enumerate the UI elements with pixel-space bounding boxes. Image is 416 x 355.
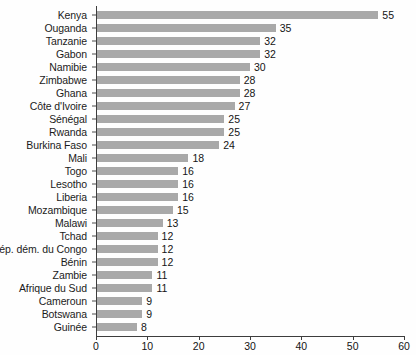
bar-value-label: 12 bbox=[162, 243, 174, 254]
plot-area: Kenya55Ouganda35Tanzanie32Gabon32Namibie… bbox=[96, 8, 404, 335]
bar-rows: Kenya55Ouganda35Tanzanie32Gabon32Namibie… bbox=[96, 8, 404, 333]
bar-value-label: 24 bbox=[223, 139, 235, 150]
category-label: Tchad bbox=[59, 230, 87, 241]
bar bbox=[96, 50, 260, 58]
category-label: Cameroun bbox=[39, 295, 87, 306]
bar-row: Rép. dém. du Congo12 bbox=[96, 242, 404, 255]
bar-value-label: 27 bbox=[239, 100, 251, 111]
category-label: Afrique du Sud bbox=[19, 282, 87, 293]
bar-row: Burkina Faso24 bbox=[96, 138, 404, 151]
bar-value-label: 32 bbox=[264, 35, 276, 46]
category-label: Tanzanie bbox=[46, 35, 87, 46]
bar-row: Namibie30 bbox=[96, 60, 404, 73]
bar bbox=[96, 180, 178, 188]
bar-value-label: 16 bbox=[182, 178, 194, 189]
bar-row: Kenya55 bbox=[96, 8, 404, 21]
bar bbox=[96, 11, 378, 19]
bar-row: Tanzanie32 bbox=[96, 34, 404, 47]
bar-row: Sénégal25 bbox=[96, 112, 404, 125]
bar bbox=[96, 219, 163, 227]
bar-row: Bénin12 bbox=[96, 255, 404, 268]
bar-row: Zambie11 bbox=[96, 268, 404, 281]
bar-value-label: 30 bbox=[254, 61, 266, 72]
bar-value-label: 25 bbox=[228, 126, 240, 137]
bar bbox=[96, 154, 188, 162]
bar-value-label: 9 bbox=[146, 308, 152, 319]
category-label: Rwanda bbox=[49, 126, 87, 137]
bar-value-label: 12 bbox=[162, 230, 174, 241]
bar bbox=[96, 24, 276, 32]
bar bbox=[96, 141, 219, 149]
bar-value-label: 9 bbox=[146, 295, 152, 306]
category-label: Liberia bbox=[56, 191, 87, 202]
bar-value-label: 8 bbox=[141, 321, 147, 332]
category-label: Burkina Faso bbox=[26, 139, 87, 150]
bar-row: Mali18 bbox=[96, 151, 404, 164]
bar bbox=[96, 245, 158, 253]
bar-row: Gabon32 bbox=[96, 47, 404, 60]
bar bbox=[96, 37, 260, 45]
category-label: Ouganda bbox=[44, 22, 87, 33]
bar-value-label: 16 bbox=[182, 165, 194, 176]
bar bbox=[96, 115, 224, 123]
bar-row: Togo16 bbox=[96, 164, 404, 177]
category-label: Sénégal bbox=[49, 113, 87, 124]
bar-value-label: 28 bbox=[244, 74, 256, 85]
bar bbox=[96, 102, 235, 110]
category-label: Lesotho bbox=[50, 178, 87, 189]
category-label: Togo bbox=[65, 165, 87, 176]
bar-value-label: 35 bbox=[280, 22, 292, 33]
category-label: Rép. dém. du Congo bbox=[0, 243, 87, 254]
bar-chart: Kenya55Ouganda35Tanzanie32Gabon32Namibie… bbox=[0, 0, 416, 355]
bar bbox=[96, 323, 137, 331]
bar bbox=[96, 258, 158, 266]
bar bbox=[96, 206, 173, 214]
category-label: Kenya bbox=[58, 9, 87, 20]
bar bbox=[96, 297, 142, 305]
bar bbox=[96, 310, 142, 318]
bar bbox=[96, 167, 178, 175]
bar-value-label: 16 bbox=[182, 191, 194, 202]
value-axis-ticks: 0102030405060 bbox=[96, 336, 404, 355]
bar-row: Rwanda25 bbox=[96, 125, 404, 138]
bar-value-label: 25 bbox=[228, 113, 240, 124]
category-axis-line bbox=[96, 6, 97, 336]
category-label: Malawi bbox=[55, 217, 87, 228]
bar bbox=[96, 89, 240, 97]
category-label: Côte d'Ivoire bbox=[30, 100, 87, 111]
bar-value-label: 55 bbox=[382, 9, 394, 20]
bar-row: Côte d'Ivoire27 bbox=[96, 99, 404, 112]
bar-row: Guinée8 bbox=[96, 320, 404, 333]
bar-value-label: 15 bbox=[177, 204, 189, 215]
value-axis-tick-label: 20 bbox=[193, 341, 205, 352]
bar-row: Tchad12 bbox=[96, 229, 404, 242]
category-label: Ghana bbox=[56, 87, 87, 98]
bar-row: Afrique du Sud11 bbox=[96, 281, 404, 294]
value-axis-tick-label: 0 bbox=[93, 341, 99, 352]
bar bbox=[96, 63, 250, 71]
bar bbox=[96, 128, 224, 136]
category-label: Botswana bbox=[42, 308, 87, 319]
bar bbox=[96, 232, 158, 240]
bar-row: Cameroun9 bbox=[96, 294, 404, 307]
category-label: Gabon bbox=[56, 48, 87, 59]
value-axis-tick-label: 10 bbox=[141, 341, 153, 352]
category-label: Zambie bbox=[53, 269, 87, 280]
bar-value-label: 18 bbox=[192, 152, 204, 163]
value-axis-tick-label: 50 bbox=[347, 341, 359, 352]
bar bbox=[96, 193, 178, 201]
bar-row: Liberia16 bbox=[96, 190, 404, 203]
bar-row: Ghana28 bbox=[96, 86, 404, 99]
value-axis-tick-label: 40 bbox=[295, 341, 307, 352]
bar-value-label: 12 bbox=[162, 256, 174, 267]
category-label: Zimbabwe bbox=[39, 74, 87, 85]
category-label: Mozambique bbox=[28, 204, 87, 215]
bar-row: Mozambique15 bbox=[96, 203, 404, 216]
bar bbox=[96, 271, 152, 279]
category-label: Bénin bbox=[61, 256, 87, 267]
bar-value-label: 28 bbox=[244, 87, 256, 98]
bar-row: Botswana9 bbox=[96, 307, 404, 320]
bar-value-label: 11 bbox=[156, 269, 167, 280]
bar-value-label: 32 bbox=[264, 48, 276, 59]
category-label: Guinée bbox=[54, 321, 87, 332]
